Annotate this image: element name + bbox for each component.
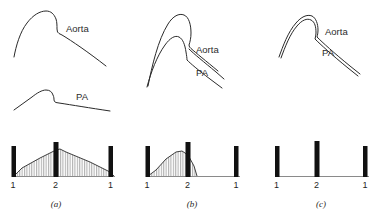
panel-a-murmur-fill [12, 144, 118, 178]
panel-b: Aorta PA 1 2 1 (b) [145, 14, 241, 209]
panel-b-sound-bar-s1 [146, 146, 151, 177]
panel-b-sound-bar-s2 [186, 142, 191, 177]
panel-b-axis-label-s1: 1 [145, 180, 150, 190]
panel-b-murmur-fill [146, 145, 202, 178]
panel-a-sound-bar-s2 [54, 142, 59, 177]
panel-c-aorta-label: Aorta [325, 26, 348, 37]
panel-c: Aorta PA 1 2 1 (c) [274, 15, 369, 209]
panel-a-aorta-trace [14, 11, 106, 66]
panel-c-axis-label-s1-repeat: 1 [363, 180, 368, 190]
panel-c-sound-bar-s1-repeat [363, 146, 368, 177]
panel-a-axis-label-s2: 2 [53, 180, 58, 190]
panel-b-letter: (b) [187, 199, 198, 209]
panel-c-letter: (c) [316, 199, 326, 209]
panel-c-pa-label: PA [322, 47, 335, 58]
panel-c-axis-label-s2: 2 [314, 180, 319, 190]
panel-c-sound-bar-s2 [315, 141, 320, 177]
panel-a-pa-trace [14, 90, 110, 111]
panel-a-phonocardiogram: 1 2 1 [11, 142, 119, 190]
panel-c-phonocardiogram: 1 2 1 [274, 141, 369, 190]
panel-b-axis-label-s2: 2 [185, 180, 190, 190]
panel-b-axis-label-s1-repeat: 1 [234, 180, 239, 190]
panel-c-aorta-trace [279, 15, 360, 74]
panel-c-axis-label-s1: 1 [274, 180, 279, 190]
panel-a-axis-label-s1: 1 [11, 180, 16, 190]
panel-b-phonocardiogram: 1 2 1 [145, 142, 241, 190]
panel-a-pa-label: PA [76, 91, 89, 102]
panel-b-sound-bar-s1-repeat [234, 146, 239, 177]
pressure-waveform-phonocardiogram-figure: Aorta PA 1 2 1 (a) [0, 0, 381, 224]
panel-a-axis-label-s1-repeat: 1 [108, 180, 113, 190]
panel-b-aorta-label: Aorta [196, 44, 219, 55]
panel-a-sound-bar-s1-repeat [109, 146, 114, 177]
panel-a: Aorta PA 1 2 1 (a) [11, 11, 119, 209]
panel-a-aorta-label: Aorta [66, 23, 89, 34]
panel-a-sound-bar-s1 [12, 146, 17, 177]
panel-c-sound-bar-s1 [275, 146, 280, 177]
panel-b-pa-label: PA [196, 67, 209, 78]
panel-a-letter: (a) [51, 199, 62, 209]
